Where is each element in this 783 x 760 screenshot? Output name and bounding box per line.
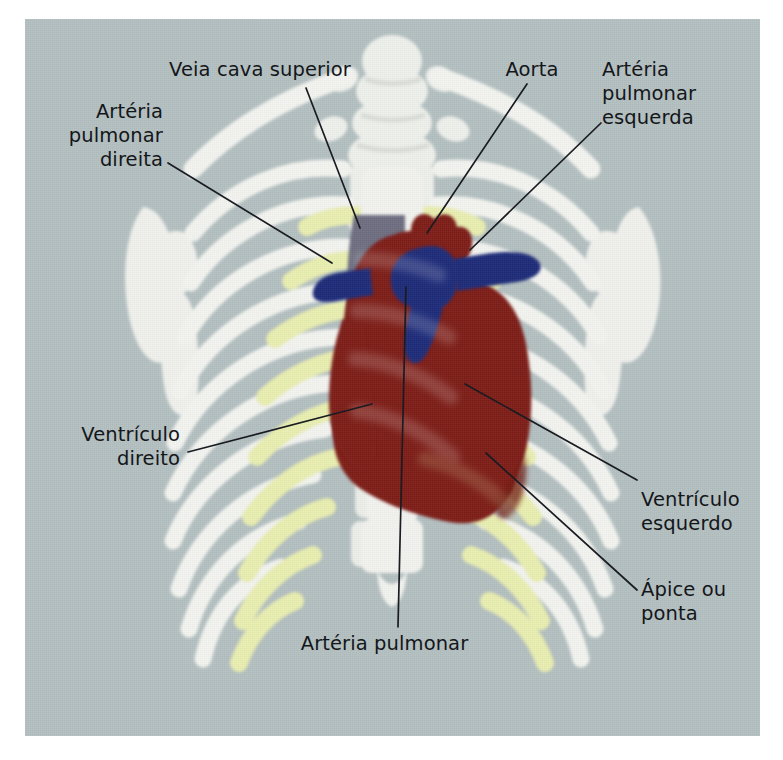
label-apice-ou-ponta: Ápice ou ponta bbox=[641, 578, 761, 626]
anatomy-figure: Veia cava superior Artéria pulmonar dire… bbox=[0, 0, 783, 760]
label-arteria-pulmonar-direita: Artéria pulmonar direita bbox=[38, 100, 163, 172]
label-veia-cava-superior: Veia cava superior bbox=[155, 58, 365, 82]
label-ventriculo-esquerdo: Ventrículo esquerdo bbox=[641, 488, 776, 536]
label-arteria-pulmonar-esquerda: Artéria pulmonar esquerda bbox=[602, 58, 742, 130]
label-ventriculo-direito: Ventrículo direito bbox=[40, 423, 180, 471]
label-aorta: Aorta bbox=[492, 58, 572, 82]
label-arteria-pulmonar: Artéria pulmonar bbox=[262, 632, 507, 656]
